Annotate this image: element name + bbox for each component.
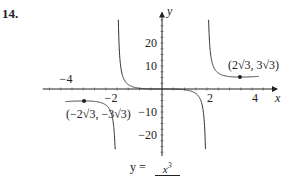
extremum-point [238, 75, 242, 79]
function-caption: y = x3 [130, 160, 180, 176]
point-label: (2√3, 3√3) [228, 58, 279, 72]
y-tick-label: 20 [145, 36, 157, 50]
graph: −4−2242010−10−20 (2√3, 3√3)(−2√3, −3√3) … [0, 0, 302, 176]
y-axis-label: y [166, 4, 173, 18]
y-tick-label: −20 [138, 128, 157, 142]
x-axis-label: x [274, 91, 281, 105]
x-tick-label: −4 [60, 72, 73, 86]
extremum-point [82, 99, 86, 103]
y-tick-label: 10 [145, 59, 157, 73]
point-label: (−2√3, −3√3) [66, 107, 131, 121]
x-tick-label: −2 [105, 91, 118, 105]
y-tick-label: −10 [138, 105, 157, 119]
caption-numerator-exponent: 3 [168, 161, 172, 170]
caption-lhs: y = [130, 160, 146, 174]
x-tick-label: 2 [207, 91, 213, 105]
caption-numerator: x3 [155, 161, 180, 176]
x-tick-label: 4 [252, 91, 258, 105]
caption-fraction: x3 [155, 161, 180, 176]
